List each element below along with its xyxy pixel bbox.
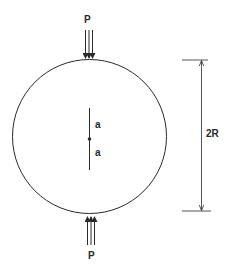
bottom-load-label: P: [88, 250, 95, 261]
crack-lower-half-label: a: [95, 147, 101, 158]
crack-center-dot: [88, 137, 92, 141]
top-load-arrows: [86, 30, 93, 58]
top-load-label: P: [84, 14, 91, 25]
diagram: P P a a 2R: [0, 0, 228, 270]
diameter-label: 2R: [206, 128, 220, 139]
bottom-load-arrows: [88, 217, 95, 245]
crack-upper-half-label: a: [95, 119, 101, 130]
